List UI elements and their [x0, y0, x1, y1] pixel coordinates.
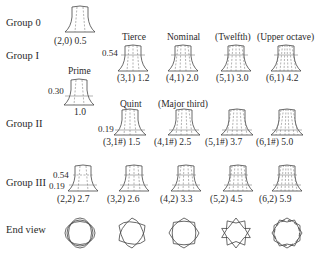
ratio-quint: 0.19	[98, 124, 114, 134]
mode-label-g2-6: (6,1#) 5.0	[256, 137, 293, 147]
end-view-2-lobes-icon	[63, 216, 97, 250]
mode-label-g3-3: (3,2) 2.6	[107, 194, 139, 204]
bell-mode-6-2-icon	[271, 164, 303, 196]
bell-mode-4-1sharp-icon	[167, 108, 201, 140]
bell-mode-5-1sharp-icon	[220, 108, 254, 140]
bell-mode-3-1sharp-icon	[113, 108, 147, 140]
ratio-tierce: 0.54	[102, 48, 118, 58]
mode-label-g2-5: (5,1#) 3.7	[205, 137, 242, 147]
name-prime: Prime	[68, 66, 91, 76]
bell-mode-2-0-icon	[64, 5, 96, 37]
bell-mode-3-1-icon	[117, 44, 149, 76]
name-upper-octave: (Upper octave)	[257, 32, 314, 42]
bell-mode-2-2-icon	[67, 164, 99, 196]
group-0-label: Group 0	[6, 17, 41, 28]
mode-label-upper-octave: (6,1) 4.2	[266, 73, 298, 83]
mode-label-major-third: (4,1#) 2.5	[154, 137, 191, 147]
mode-label-tierce: (3,1) 1.2	[117, 73, 149, 83]
mode-label-g0: (2,0) 0.5	[54, 36, 86, 46]
mode-label-g3-4: (4,2) 3.3	[160, 194, 192, 204]
mode-label-prime: 1.0	[74, 107, 86, 117]
ratio-prime: 0.30	[48, 86, 64, 96]
bell-mode-5-2-icon	[222, 164, 254, 196]
group-2-label: Group II	[6, 118, 42, 129]
mode-label-g3-2: (2,2) 2.7	[57, 194, 89, 204]
mode-label-g3-6: (6,2) 5.9	[259, 194, 291, 204]
group-1-label: Group I	[6, 50, 39, 61]
mode-label-nominal: (4,1) 2.0	[166, 73, 198, 83]
bell-mode-4-2-icon	[170, 164, 202, 196]
end-view-3-lobes-icon	[115, 216, 149, 250]
end-view-5-lobes-icon	[219, 216, 253, 250]
bell-mode-5-1-icon	[220, 44, 252, 76]
end-view-4-lobes-icon	[167, 216, 201, 250]
end-view-6-lobes-icon	[270, 216, 304, 250]
mode-label-twelfth: (5,1) 3.0	[216, 73, 248, 83]
bell-prime-icon	[63, 78, 95, 110]
bell-mode-6-1sharp-icon	[270, 108, 304, 140]
bell-mode-6-1-icon	[270, 44, 302, 76]
name-tierce: Tierce	[122, 32, 146, 42]
mode-label-g3-5: (5,2) 4.5	[210, 194, 242, 204]
ratio-g3-bottom: 0.19	[49, 181, 65, 191]
bell-mode-4-1-icon	[167, 44, 199, 76]
group-3-label: Group III	[6, 177, 46, 188]
bell-mode-3-2-icon	[118, 164, 150, 196]
end-view-label: End view	[6, 224, 46, 235]
name-nominal: Nominal	[167, 32, 200, 42]
mode-label-quint: (3,1#) 1.5	[103, 137, 140, 147]
name-twelfth: (Twelfth)	[215, 32, 251, 42]
